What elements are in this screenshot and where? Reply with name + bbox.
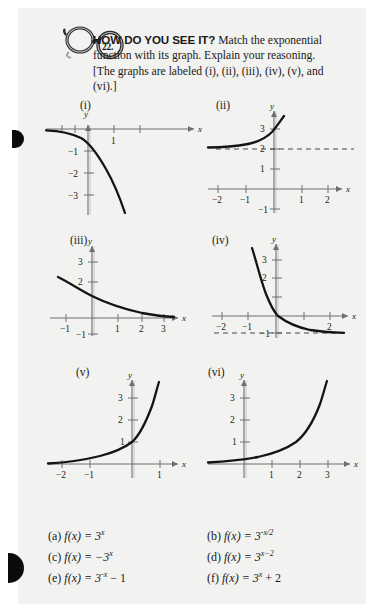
graph-ii-x-axis-name: x xyxy=(345,184,350,194)
graph-iv-y-axis-name: y xyxy=(271,236,276,244)
graph-iii-y-tick-2: 2 xyxy=(78,277,83,287)
graph-panel-vi: (vi) x y 1 2 3 3 2 1 xyxy=(196,366,372,488)
graph-iii-x-tick-1: 1 xyxy=(115,324,120,334)
graph-panel-iii: (iii) x y −1 1 2 3 3 2 −1 xyxy=(28,236,204,346)
answer-e-tail: − 1 xyxy=(107,571,126,585)
graph-vi-x-tick-2: 2 xyxy=(297,470,302,480)
answer-b-expr: f(x) = 3 xyxy=(224,529,261,543)
graph-vi-y-tick-1: 1 xyxy=(232,437,237,447)
page-edge-mark-bottom xyxy=(8,553,24,583)
graph-iv-x-tick-2: 2 xyxy=(327,322,332,332)
graph-iv-x-axis-name: x xyxy=(351,311,356,321)
answer-c-expr: f(x) = −3 xyxy=(64,550,109,564)
answer-row-3: (e) f(x) = 3-x − 1 (f) f(x) = 3x + 2 xyxy=(44,570,354,591)
graph-vi-x-tick-1: 1 xyxy=(269,470,274,480)
answer-d-expr: f(x) = 3 xyxy=(224,550,261,564)
graph-iii-y-axis-name: y xyxy=(87,236,92,246)
answer-choice-b[interactable]: (b) f(x) = 3-x/2 xyxy=(207,528,273,544)
graph-iii-x-tick-3: 3 xyxy=(161,324,166,334)
graph-panel-i: (i) x y 1 −1 −2 −3 xyxy=(28,103,204,218)
graph-panel-ii: (ii) x y −2 −1 1 2 3 2 1 −1 xyxy=(196,103,366,223)
graph-vi-x-axis-name: x xyxy=(353,459,358,469)
problem-title: HOW DO YOU SEE IT? xyxy=(93,33,215,46)
graph-vi-y-tick-3: 3 xyxy=(230,393,235,403)
graph-i-x-tick-1: 1 xyxy=(111,136,116,146)
graph-ii-y-tick-1: 1 xyxy=(260,164,265,174)
graph-ii-x-tick-neg2: −2 xyxy=(212,195,222,205)
graph-iv-x-tick-neg2: −2 xyxy=(216,322,226,332)
graph-iii-plot: x y −1 1 2 3 3 2 −1 xyxy=(28,236,204,346)
graph-iii-x-axis-name: x xyxy=(181,313,186,323)
graph-v-plot: x y −2 −1 1 3 2 1 xyxy=(28,366,204,488)
graph-label-v: (v) xyxy=(76,366,89,378)
graph-i-y-tick-neg1: −1 xyxy=(68,147,78,157)
graph-ii-plot: x y −2 −1 1 2 3 2 1 −1 xyxy=(196,103,366,223)
page-edge-mark-top xyxy=(12,130,24,148)
graph-v-y-tick-3: 3 xyxy=(118,393,123,403)
graph-v-x-axis-name: x xyxy=(181,459,186,469)
graph-iv-x-tick-neg1: −1 xyxy=(242,322,252,332)
graph-ii-y-tick-neg1: −1 xyxy=(258,205,268,215)
answer-c-key: (c) xyxy=(48,550,61,564)
answer-a-expr: f(x) = 3 xyxy=(64,529,101,543)
answer-e-key: (e) xyxy=(48,571,61,585)
answer-choice-f[interactable]: (f) f(x) = 3x + 2 xyxy=(207,570,281,586)
graph-ii-x-tick-1: 1 xyxy=(299,195,304,205)
answer-e-expr: f(x) = 3 xyxy=(64,571,101,585)
answer-b-exponent: -x/2 xyxy=(261,528,273,537)
graph-v-y-axis-name: y xyxy=(127,370,132,380)
answer-choice-e[interactable]: (e) f(x) = 3-x − 1 xyxy=(48,570,126,586)
textbook-page: 22. HOW DO YOU SEE IT? Match the exponen… xyxy=(18,8,366,604)
answer-choice-a[interactable]: (a) f(x) = 3x xyxy=(48,528,105,544)
answer-choice-c[interactable]: (c) f(x) = −3x xyxy=(48,549,113,565)
graph-v-x-tick-neg1: −1 xyxy=(84,470,94,480)
graph-vi-x-tick-3: 3 xyxy=(325,470,330,480)
graph-i-plot: x y 1 −1 −2 −3 xyxy=(28,103,204,218)
graph-ii-y-axis-name: y xyxy=(269,103,274,111)
graph-label-iii: (iii) xyxy=(70,234,87,246)
graph-iv-plot: x y −2 −1 2 3 2 −1 xyxy=(196,236,372,348)
graph-i-y-tick-neg2: −2 xyxy=(68,169,78,179)
graph-label-i: (i) xyxy=(80,99,91,111)
graph-ii-y-tick-3: 3 xyxy=(260,124,265,134)
graph-v-y-tick-1: 1 xyxy=(120,437,125,447)
answer-d-key: (d) xyxy=(207,550,221,564)
graph-iii-y-tick-3: 3 xyxy=(78,257,83,267)
answer-b-key: (b) xyxy=(207,529,221,543)
graph-ii-x-tick-2: 2 xyxy=(325,195,330,205)
answer-row-1: (a) f(x) = 3x (b) f(x) = 3-x/2 xyxy=(44,528,354,549)
graph-iv-y-tick-neg1: −1 xyxy=(260,329,270,339)
graph-vi-y-axis-name: y xyxy=(239,370,244,380)
graph-label-ii: (ii) xyxy=(216,99,230,111)
answer-f-tail: + 2 xyxy=(262,571,281,585)
graph-v-x-tick-neg2: −2 xyxy=(56,470,66,480)
graph-label-iv: (iv) xyxy=(212,234,229,246)
graph-v-x-tick-1: 1 xyxy=(157,470,162,480)
graph-label-vi: (vi) xyxy=(208,366,225,378)
answer-choice-list: (a) f(x) = 3x (b) f(x) = 3-x/2 (c) f(x) … xyxy=(44,528,354,591)
graph-iii-y-tick-neg1: −1 xyxy=(76,330,86,340)
answer-a-exponent: x xyxy=(101,528,105,537)
graph-panel-iv: (iv) x y −2 −1 2 3 2 −1 xyxy=(196,236,372,348)
graph-iii-x-tick-neg1: −1 xyxy=(60,324,70,334)
answer-a-key: (a) xyxy=(48,529,61,543)
answer-f-key: (f) xyxy=(207,571,219,585)
graph-iv-y-tick-3: 3 xyxy=(262,255,267,265)
answer-f-expr: f(x) = 3 xyxy=(222,571,259,585)
graph-v-y-tick-2: 2 xyxy=(118,415,123,425)
answer-d-exponent: x−2 xyxy=(261,549,274,558)
graph-i-y-tick-neg3: −3 xyxy=(68,191,78,201)
graph-panel-v: (v) x y −2 −1 1 3 2 1 xyxy=(28,366,204,488)
answer-row-2: (c) f(x) = −3x (d) f(x) = 3x−2 xyxy=(44,549,354,570)
graph-vi-y-tick-2: 2 xyxy=(230,415,235,425)
answer-choice-d[interactable]: (d) f(x) = 3x−2 xyxy=(207,549,274,565)
answer-c-exponent: x xyxy=(109,549,113,558)
problem-statement: HOW DO YOU SEE IT? Match the exponential… xyxy=(93,32,338,95)
graph-vi-plot: x y 1 2 3 3 2 1 xyxy=(196,366,372,488)
graph-ii-x-tick-neg1: −1 xyxy=(240,195,250,205)
graph-iii-x-tick-2: 2 xyxy=(139,324,144,334)
